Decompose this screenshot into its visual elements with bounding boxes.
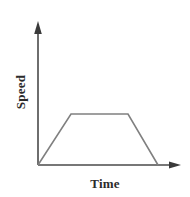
plot-area (0, 0, 190, 197)
x-axis-arrowhead-icon (169, 161, 181, 168)
speed-time-curve (38, 114, 158, 165)
x-axis-label: Time (0, 177, 190, 190)
speed-time-figure: Speed Time (0, 0, 190, 197)
y-axis-label: Speed (14, 72, 27, 112)
y-axis-arrowhead-icon (34, 21, 42, 34)
